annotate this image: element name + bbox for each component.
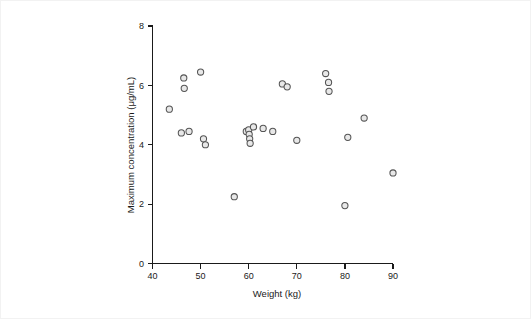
y-tick-label: 6 — [139, 81, 144, 91]
data-point — [247, 140, 253, 146]
scatter-plot-canvas: 02468 405060708090 Weight (kg) Maximum c… — [0, 0, 531, 319]
data-point — [166, 106, 172, 112]
data-point — [260, 125, 266, 131]
y-tick-label: 4 — [139, 140, 144, 150]
data-point — [326, 88, 332, 94]
data-points-layer — [166, 69, 396, 209]
data-point — [342, 203, 348, 209]
data-point — [181, 85, 187, 91]
y-tick-label: 0 — [139, 259, 144, 269]
data-point — [178, 130, 184, 136]
data-point — [361, 115, 367, 121]
data-point — [202, 142, 208, 148]
data-point — [231, 194, 237, 200]
data-point — [270, 128, 276, 134]
data-point — [323, 70, 329, 76]
x-tick-label: 40 — [147, 271, 157, 281]
data-point — [345, 134, 351, 140]
x-tick-label: 70 — [292, 271, 302, 281]
data-point — [390, 170, 396, 176]
y-axis-title: Maximum concentration (μg/mL) — [125, 77, 136, 213]
data-point — [181, 75, 187, 81]
x-tick-label: 90 — [388, 271, 398, 281]
y-axis: 02468 — [139, 21, 153, 269]
x-axis-ticks: 405060708090 — [147, 264, 398, 282]
x-tick-label: 60 — [244, 271, 254, 281]
x-axis: 405060708090 — [147, 264, 398, 282]
x-tick-label: 80 — [340, 271, 350, 281]
data-point — [294, 137, 300, 143]
data-point — [198, 69, 204, 75]
data-point — [284, 84, 290, 90]
x-axis-title: Weight (kg) — [253, 288, 301, 299]
x-tick-label: 50 — [196, 271, 206, 281]
y-tick-label: 2 — [139, 199, 144, 209]
data-point — [186, 128, 192, 134]
scatter-plot-figure: 02468 405060708090 Weight (kg) Maximum c… — [0, 0, 531, 319]
data-point — [250, 124, 256, 130]
y-tick-label: 8 — [139, 21, 144, 31]
data-point — [200, 136, 206, 142]
data-point — [325, 79, 331, 85]
y-axis-ticks: 02468 — [139, 21, 153, 269]
